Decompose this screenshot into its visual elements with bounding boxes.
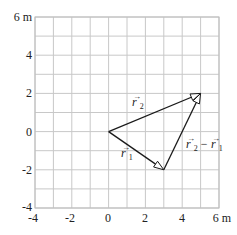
vector-diagram: 6 m 4 2 0 -2 -4 -4 -2 0 2 4 6 m → r 2 → … bbox=[0, 0, 237, 235]
vector-r2 bbox=[109, 97, 192, 131]
x-tick-neg2: -2 bbox=[65, 211, 75, 225]
arrowhead-icon bbox=[154, 161, 164, 170]
x-tick-6: 6 m bbox=[213, 211, 232, 225]
label-r1: → r 1 bbox=[121, 139, 133, 162]
y-tick-neg2: -2 bbox=[22, 163, 32, 177]
label-r2: → r 2 bbox=[132, 88, 144, 111]
x-tick-0: 0 bbox=[105, 211, 111, 225]
x-tick-neg4: -4 bbox=[28, 211, 38, 225]
x-tick-2: 2 bbox=[142, 211, 148, 225]
x-tick-4: 4 bbox=[179, 211, 185, 225]
y-tick-0: 0 bbox=[26, 125, 32, 139]
y-tick-6: 6 m bbox=[14, 10, 33, 24]
y-tick-4: 4 bbox=[26, 48, 32, 62]
y-tick-2: 2 bbox=[26, 86, 32, 100]
label-r2-minus-r1: → r 2 − → r 1 bbox=[186, 130, 223, 154]
